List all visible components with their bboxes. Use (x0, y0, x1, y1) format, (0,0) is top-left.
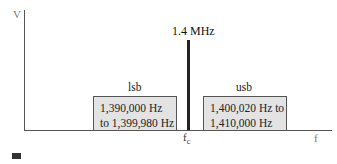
carrier-line (187, 40, 190, 130)
lsb-label: lsb (128, 81, 141, 93)
carrier-symbol-subscript: c (187, 137, 191, 146)
usb-range-line1: 1,400,020 Hz to (210, 101, 286, 116)
x-axis-label: f (314, 132, 318, 144)
usb-range-line2: 1,410,000 Hz (210, 116, 286, 131)
carrier-frequency-label: 1.4 MHz (172, 24, 215, 39)
lsb-range-line2: to 1,399,980 Hz (100, 116, 176, 131)
corner-marker-icon (12, 153, 21, 159)
carrier-symbol: fc (183, 131, 190, 146)
usb-label: usb (236, 81, 252, 93)
y-axis-label: V (13, 8, 21, 20)
y-axis (24, 10, 25, 131)
upper-sideband-box: 1,400,020 Hz to 1,410,000 Hz (203, 96, 287, 131)
lower-sideband-box: 1,390,000 Hz to 1,399,980 Hz (93, 96, 177, 131)
lsb-range-line1: 1,390,000 Hz (100, 101, 176, 116)
